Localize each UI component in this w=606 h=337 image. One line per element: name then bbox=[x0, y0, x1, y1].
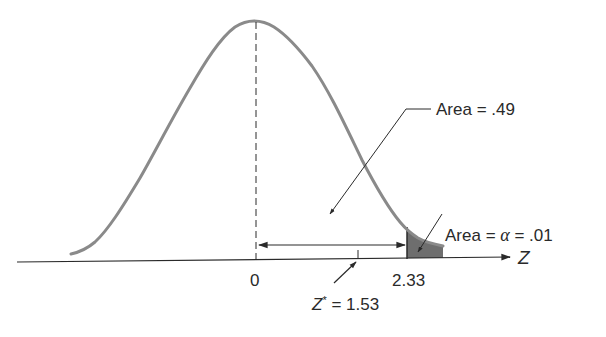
tick-label-critical: 2.33 bbox=[392, 271, 425, 290]
area-tail-prefix: Area = bbox=[445, 226, 500, 245]
z-star-symbol: Z bbox=[311, 295, 323, 314]
z-star-label: Z* = 1.53 bbox=[311, 294, 379, 314]
z-axis-label: Z bbox=[517, 247, 531, 268]
area-tail-label: Area = α = .01 bbox=[445, 225, 553, 245]
area-tail-suffix: = .01 bbox=[510, 226, 553, 245]
area-center-label: Area = .49 bbox=[436, 100, 515, 119]
normal-curve-diagram: Area = .49 Area = α = .01 Z 0 2.33 Z* = … bbox=[0, 0, 606, 337]
z-star-pointer-arrow bbox=[334, 262, 356, 283]
z-star-value: = 1.53 bbox=[327, 295, 379, 314]
tick-label-zero: 0 bbox=[250, 271, 259, 290]
normal-curve bbox=[71, 21, 443, 254]
z-axis bbox=[17, 257, 510, 262]
